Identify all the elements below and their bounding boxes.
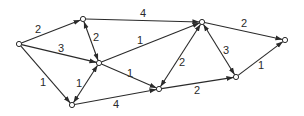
node-f — [233, 74, 238, 79]
edge-weight-label: 1 — [76, 78, 82, 89]
edge-weight-label: 3 — [58, 43, 64, 54]
edge-a-b — [86, 19, 200, 22]
edge-s-a — [21, 20, 80, 43]
edge-weight-label: 2 — [93, 32, 99, 43]
edge-b-f — [203, 24, 234, 75]
edge-weight-label: 1 — [127, 68, 133, 79]
edge-weight-label: 2 — [35, 24, 41, 35]
edge-weight-label: 2 — [241, 18, 247, 29]
network-flow-diagram: 24321111422321 — [0, 0, 304, 116]
node-s — [16, 41, 21, 46]
nodes-layer — [16, 16, 287, 107]
edge-weight-label: 2 — [194, 85, 200, 96]
edge-weight-label: 1 — [40, 77, 46, 88]
edge-weight-label: 3 — [223, 45, 229, 56]
node-b — [199, 19, 204, 24]
node-e — [156, 86, 161, 91]
node-t — [282, 37, 287, 42]
edge-weight-label: 4 — [140, 8, 146, 19]
edge-weight-label: 1 — [137, 35, 143, 46]
node-d — [69, 102, 74, 107]
edges-layer — [21, 19, 283, 104]
edge-weight-label: 1 — [258, 60, 264, 71]
edge-weight-label: 4 — [113, 99, 119, 110]
node-c — [96, 60, 101, 65]
node-a — [80, 16, 85, 21]
edge-weight-label: 2 — [179, 57, 185, 68]
